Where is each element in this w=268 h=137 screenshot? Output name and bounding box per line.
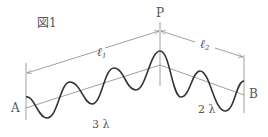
figure-title: 図1 — [37, 16, 57, 30]
wavelength-2-label: 2 λ — [198, 103, 215, 116]
point-p-label: P — [156, 6, 164, 20]
point-b-label: B — [249, 87, 258, 101]
baseline-a-p — [26, 65, 160, 108]
diagram-canvas: 図1 P A B ℓ1 ℓ2 3 λ 2 λ — [0, 0, 268, 137]
point-a-label: A — [10, 101, 20, 115]
l1-arrow-left — [27, 50, 100, 73]
l2-arrow-left — [161, 31, 195, 42]
l1-arrow-right — [105, 31, 159, 48]
length-l1-label: ℓ1 — [97, 45, 106, 60]
length-l2-label: ℓ2 — [200, 37, 210, 52]
l2-arrow-right — [215, 48, 243, 57]
wavelength-3-label: 3 λ — [92, 118, 109, 131]
